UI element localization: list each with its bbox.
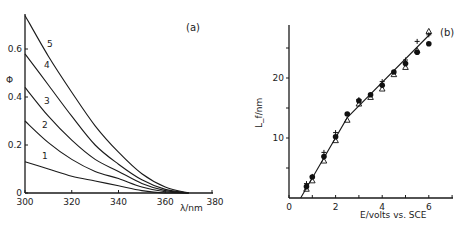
- curve-label-1: 1: [42, 151, 48, 161]
- x-tick-label: 360: [157, 197, 174, 207]
- panel-a-x-label: λ/nm: [180, 203, 203, 213]
- x-tick-label: 340: [110, 197, 127, 207]
- curve-1: [25, 162, 189, 193]
- x-tick-label: 380: [206, 197, 223, 207]
- y-tick-label: 20: [273, 73, 285, 83]
- filled-circle-point: [344, 111, 350, 117]
- curve-label-5: 5: [47, 39, 53, 49]
- curve-2: [25, 121, 189, 193]
- curve-label-3: 3: [44, 96, 50, 106]
- panel-a-label: (a): [186, 22, 200, 33]
- y-tick-label: 0.6: [8, 44, 23, 54]
- panel-b-label: (b): [440, 27, 454, 38]
- panel-b-y-ticks: 1020: [273, 48, 289, 168]
- curve-label-4: 4: [44, 60, 50, 70]
- filled-circle-point: [426, 41, 432, 47]
- x-tick-label: 320: [63, 197, 80, 207]
- panel-b-fit-line: [301, 33, 431, 198]
- panel-b-data-points: [304, 28, 432, 191]
- figure: 00.20.40.6 300320340360380 12345 Φ λ/nm …: [0, 0, 464, 228]
- panel-b-x-label: E/volts vs. SCE: [360, 210, 427, 220]
- x-tick-label: 0: [286, 202, 292, 212]
- panel-a-curve-labels: 12345: [42, 39, 53, 161]
- curve-label-2: 2: [42, 120, 48, 130]
- y-tick-label: 0.2: [8, 140, 22, 150]
- fit-line: [301, 33, 431, 198]
- curve-4: [25, 54, 189, 193]
- cross-point: [415, 39, 420, 44]
- panel-a-chart: 00.20.40.6 300320340360380 12345 Φ λ/nm …: [6, 14, 224, 213]
- panel-b-y-label: L_f/nm: [254, 98, 264, 128]
- panel-b-chart: 1020 0246 L_f/nm E/volts vs. SCE (b): [254, 25, 454, 220]
- x-tick-label: 300: [16, 197, 33, 207]
- panel-a-y-label: Φ: [6, 75, 13, 85]
- x-tick-label: 2: [333, 202, 339, 212]
- y-tick-label: 10: [273, 133, 285, 143]
- x-tick-label: 6: [426, 202, 432, 212]
- open-triangle-point: [344, 117, 350, 122]
- y-tick-label: 0.4: [8, 92, 23, 102]
